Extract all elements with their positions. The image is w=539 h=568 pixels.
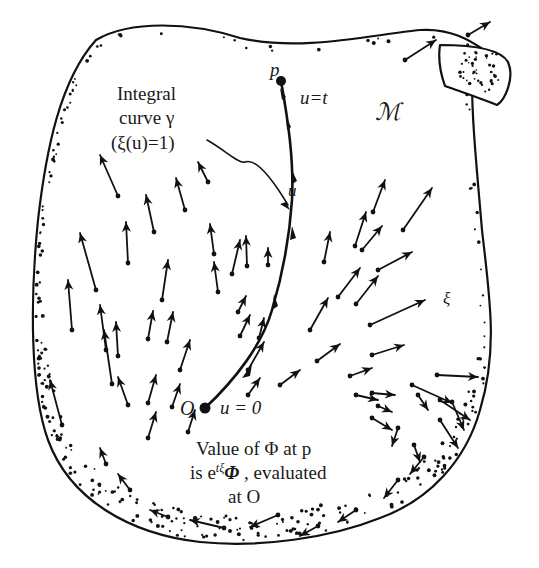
vector-arrow (150, 509, 170, 519)
vector-arrow (242, 236, 251, 268)
vector-arrow (165, 312, 176, 344)
vector-arrow (99, 448, 108, 466)
vector-arrow (348, 367, 372, 378)
vector-arrow (466, 22, 490, 37)
vector-arrow (336, 268, 360, 299)
vector-arrow (146, 375, 158, 405)
label-manifold-M: ℳ (375, 99, 404, 125)
vector-arrow (401, 188, 432, 232)
label-curve-gamma: curve γ (119, 107, 174, 128)
label-xi-u-eq-1: (ξ(u)=1) (111, 132, 175, 154)
vector-arrow (236, 296, 246, 314)
vector-arrow (198, 162, 210, 184)
vector-arrow (144, 195, 157, 234)
vector-arrow (230, 240, 242, 276)
point-O (200, 403, 211, 414)
vector-arrow (64, 280, 74, 332)
vector-arrow (410, 383, 452, 403)
vector-arrow (146, 412, 158, 440)
vector-arrow (368, 300, 425, 327)
label-u-eq-0: u = 0 (220, 397, 262, 418)
vector-arrow (101, 330, 114, 386)
vector-arrow (370, 344, 404, 358)
label-p: p (268, 59, 280, 80)
label-pointer-line (207, 140, 288, 205)
vector-arrow (278, 370, 300, 387)
vector-arrow (435, 372, 478, 381)
vector-arrow (118, 474, 132, 492)
vector-arrow (322, 232, 333, 264)
vector-arrow (238, 315, 250, 338)
vector-arrow (376, 404, 392, 413)
vector-arrow (376, 252, 412, 272)
vector-arrow (384, 478, 400, 498)
vector-arrow (174, 178, 187, 212)
vector-arrow (403, 40, 436, 62)
manifold-diagram: Integral curve γ (ξ(u)=1) p u=t ℳ u ξ O … (0, 0, 539, 568)
manifold-curl (439, 45, 510, 105)
vector-arrow (190, 518, 226, 530)
vector-arrow (315, 344, 340, 363)
vector-arrow (370, 416, 392, 430)
label-value-of-phi: Value of Φ at p (196, 438, 311, 459)
vector-arrow (354, 276, 378, 306)
vector-arrow (178, 340, 192, 372)
vector-arrow (78, 233, 98, 292)
vector-arrow (100, 155, 121, 198)
label-u: u (288, 181, 297, 200)
vector-arrow (211, 262, 221, 294)
vector-arrow (48, 380, 64, 427)
vector-arrow (250, 513, 280, 528)
vector-arrow (146, 311, 156, 341)
vector-arrow (371, 180, 386, 214)
vector-arrow (112, 322, 121, 358)
vector-arrow (338, 508, 358, 522)
label-integral: Integral (117, 83, 176, 104)
vector-arrow (416, 393, 428, 410)
label-O: O (180, 397, 194, 419)
vector-arrow (160, 260, 171, 302)
vector-arrow (360, 226, 382, 252)
label-at-O: at O (228, 486, 260, 507)
vector-arrow (246, 378, 260, 397)
vector-arrow (300, 524, 320, 536)
vector-arrow (412, 443, 421, 462)
vector-arrow (308, 298, 328, 332)
label-xi: ξ (443, 289, 451, 308)
vector-arrow (117, 377, 130, 407)
label-exp-formula: is etξΦ , evaluated (190, 461, 327, 483)
label-u-eq-t: u=t (300, 87, 328, 108)
vector-arrow (264, 248, 273, 267)
vector-arrow (353, 212, 368, 248)
vector-arrow (122, 222, 131, 265)
vector-arrow (207, 224, 217, 256)
vector-arrow (391, 426, 401, 446)
pointer-arrowhead (280, 202, 290, 210)
